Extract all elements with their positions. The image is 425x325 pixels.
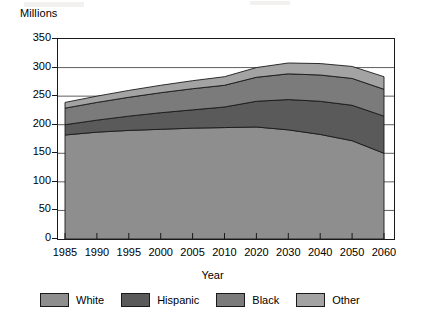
legend-entry-other[interactable]: Other — [296, 293, 360, 307]
legend-label: Other — [332, 294, 360, 307]
scan-artifact — [250, 1, 290, 5]
legend-swatch-other — [296, 293, 325, 307]
y-tick-mark — [52, 38, 57, 39]
y-tick-label: 300 — [5, 61, 51, 72]
legend-entry-hispanic[interactable]: Hispanic — [121, 293, 199, 307]
y-tick-label: 150 — [5, 146, 51, 157]
legend-entry-black[interactable]: Black — [216, 293, 279, 307]
legend-entry-white[interactable]: White — [40, 293, 104, 307]
y-tick-label: 350 — [5, 32, 51, 43]
legend-label: Hispanic — [157, 294, 199, 307]
y-tick-mark — [52, 124, 57, 125]
x-axis-title: Year — [0, 269, 425, 282]
area-band-white — [65, 127, 384, 239]
stacked-area-plot — [58, 39, 394, 239]
chart-figure: Millions 050100150200250300350 198519901… — [0, 0, 425, 325]
y-tick-label: 100 — [5, 175, 51, 186]
y-tick-mark — [52, 95, 57, 96]
y-tick-label: 50 — [5, 203, 51, 214]
x-axis-tick-labels: 1985199019952000200520102020203020402050… — [0, 246, 425, 262]
y-tick-mark — [52, 181, 57, 182]
y-tick-mark — [52, 209, 57, 210]
legend-swatch-white — [40, 293, 69, 307]
plot-area — [57, 38, 395, 240]
legend-swatch-black — [216, 293, 245, 307]
y-tick-mark — [52, 152, 57, 153]
y-tick-label: 250 — [5, 89, 51, 100]
legend-swatch-hispanic — [121, 293, 150, 307]
x-tick-label: 2060 — [361, 246, 407, 259]
y-tick-label: 0 — [5, 232, 51, 243]
y-tick-mark — [52, 238, 57, 239]
y-tick-mark — [52, 67, 57, 68]
legend-label: Black — [252, 294, 279, 307]
chart-legend: WhiteHispanicBlackOther — [40, 290, 390, 310]
y-tick-label: 200 — [5, 118, 51, 129]
legend-label: White — [76, 294, 104, 307]
